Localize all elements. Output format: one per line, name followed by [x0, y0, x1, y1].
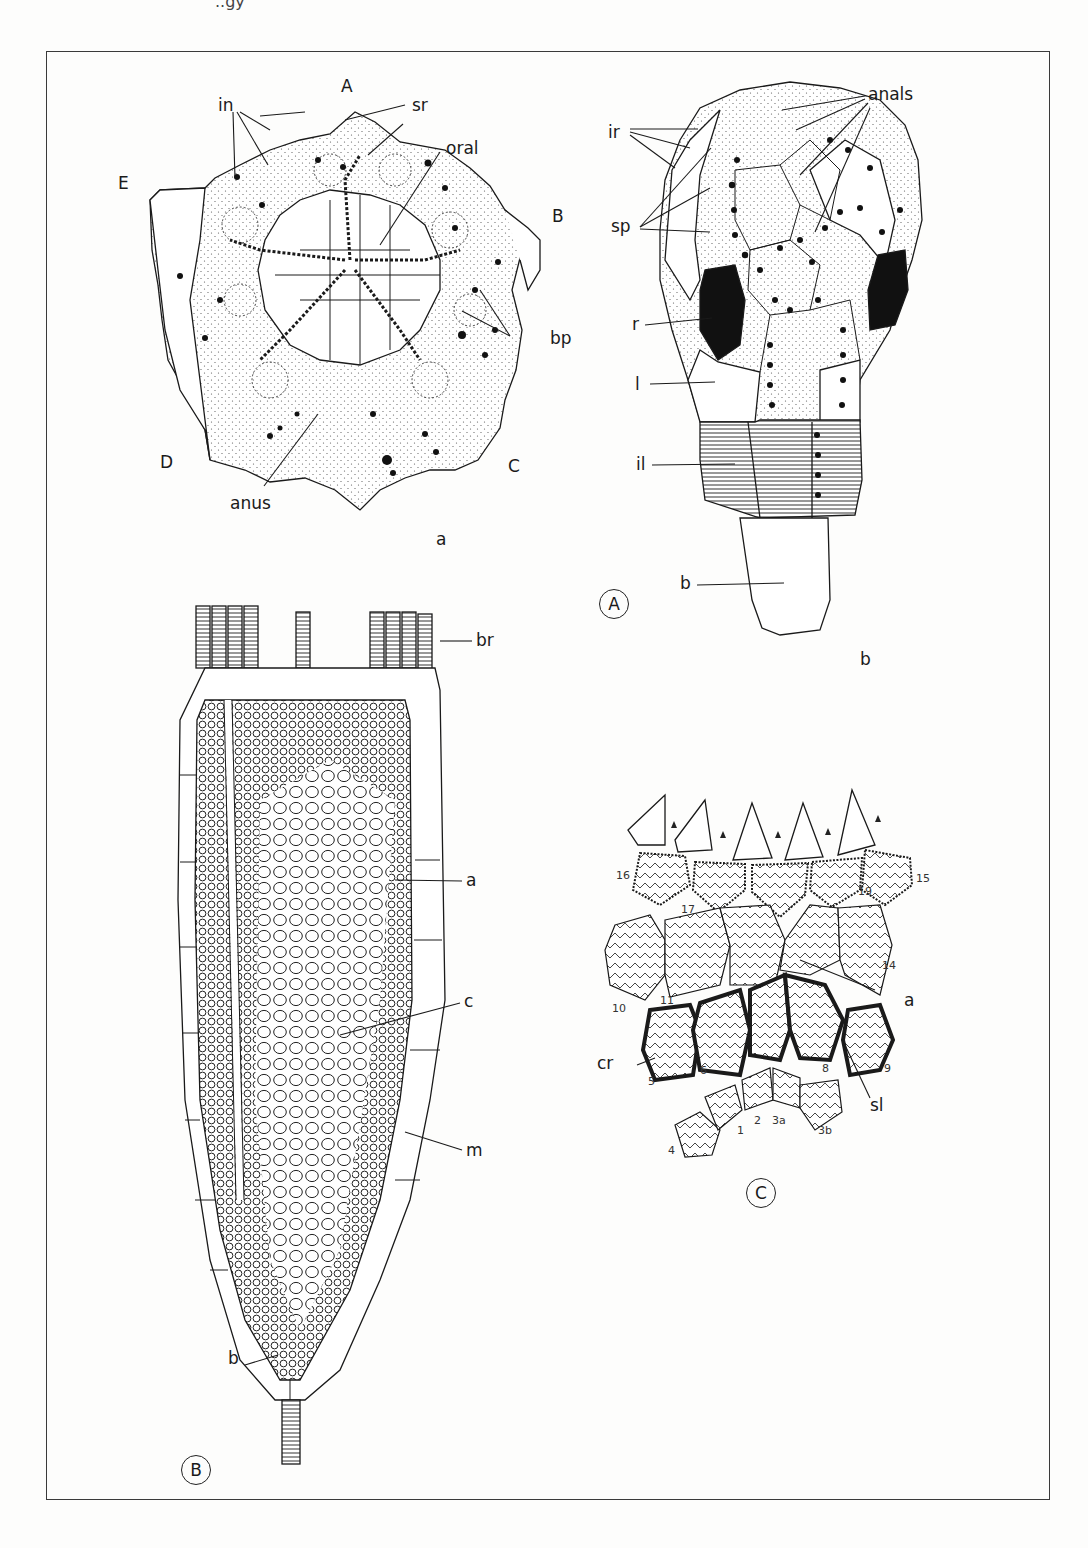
figure-c-badge: C — [746, 1178, 776, 1208]
sublabel-a: a — [436, 531, 446, 548]
figure-a-badge: A — [599, 589, 629, 619]
plate-number-5: 5 — [648, 1076, 655, 1087]
plate-number-17: 17 — [681, 904, 695, 915]
ambulacrum-d-label: D — [160, 454, 173, 471]
label-br: br — [476, 632, 494, 649]
label-anus: anus — [230, 495, 271, 512]
label-l: l — [635, 376, 640, 393]
plate-number-3b: 3b — [818, 1125, 832, 1136]
ambulacrum-e-label: E — [118, 175, 129, 192]
label-sl: sl — [870, 1097, 884, 1114]
plate-number-14: 14 — [882, 960, 896, 971]
label-oral: oral — [446, 140, 479, 157]
label-c: c — [464, 993, 473, 1010]
plate-number-11: 11 — [660, 995, 674, 1006]
figure-b-badge: B — [181, 1455, 211, 1485]
label-il: il — [636, 456, 645, 473]
plate-number-8: 8 — [822, 1063, 829, 1074]
label-sr: sr — [412, 97, 428, 114]
plate-number-6: 6 — [700, 1065, 707, 1076]
plate-number-2: 2 — [754, 1115, 761, 1126]
label-ir: ir — [608, 124, 620, 141]
plate-number-9: 9 — [884, 1063, 891, 1074]
label-anals: anals — [868, 86, 913, 103]
plate-number-10: 10 — [612, 1003, 626, 1014]
plate-number-3a: 3a — [772, 1115, 786, 1126]
figure-b-section — [178, 606, 472, 1464]
label-b-a: a — [466, 872, 476, 889]
ambulacrum-b-label: B — [552, 208, 564, 225]
label-in: in — [218, 97, 234, 114]
plate-number-15: 15 — [916, 873, 930, 884]
plate-illustration — [0, 0, 1088, 1548]
label-b-basal: b — [680, 575, 691, 592]
figure-a-oral-view — [150, 105, 540, 510]
plate-number-19: 19 — [858, 886, 872, 897]
label-cr: cr — [597, 1055, 613, 1072]
label-b-base: b — [228, 1350, 239, 1367]
plate-number-4: 4 — [668, 1145, 675, 1156]
figure-c-plate-diagram — [605, 790, 912, 1157]
ambulacrum-c-label: C — [508, 458, 520, 475]
plate-number-16: 16 — [616, 870, 630, 881]
label-sp: sp — [611, 218, 631, 235]
figure-b-lateral-view — [630, 82, 922, 635]
plate-number-1: 1 — [737, 1125, 744, 1136]
label-c-a: a — [904, 992, 914, 1009]
sublabel-b: b — [860, 651, 871, 668]
label-r: r — [632, 316, 639, 333]
label-bp: bp — [550, 330, 572, 347]
label-m: m — [466, 1142, 483, 1159]
ambulacrum-a-label: A — [341, 78, 353, 95]
